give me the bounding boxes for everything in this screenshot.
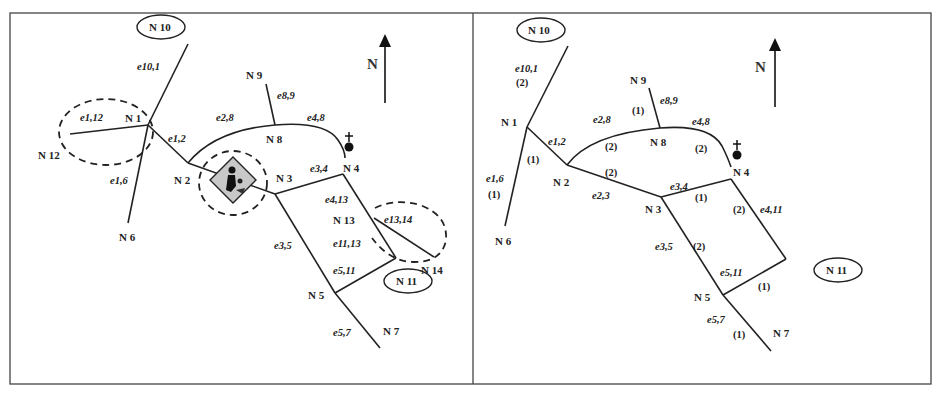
- edge-label-e5-7: e5,7: [707, 314, 726, 325]
- node-n11: N 11: [826, 264, 847, 276]
- hospital-cross-icon: [345, 132, 354, 152]
- edge-label-e1-2: e1,2: [168, 133, 187, 144]
- edge-label-e4-13: e4,13: [325, 194, 348, 205]
- edge-label-e1-2: e1,2: [548, 136, 567, 147]
- edge-label-e3-5: e3,5: [655, 241, 673, 252]
- edge-label-e5-11: e5,11: [333, 265, 355, 276]
- node-n7: N 7: [383, 325, 400, 337]
- edge-label-e2-3: e2,3: [592, 190, 610, 201]
- edge-weight-e4-8: (2): [695, 143, 708, 155]
- edge-label-e2-8: e2,8: [593, 114, 612, 125]
- node-n9: N 9: [246, 69, 263, 81]
- edge-label-e4-8: e4,8: [692, 116, 711, 127]
- node-n3: N 3: [645, 203, 662, 215]
- edge-label-e1-6: e1,6: [486, 173, 505, 184]
- node-n4: N 4: [343, 162, 360, 174]
- right-panel: N N 10 N 1 N 6 N 2 N 9 N 8 N 3 N 4 N 11 …: [486, 18, 862, 351]
- node-n13: N 13: [333, 214, 355, 226]
- edge-weight-e10-1: (2): [516, 77, 529, 89]
- edge-label-e11-13: e11,13: [333, 238, 361, 249]
- edge-label-e10-1: e10,1: [515, 63, 538, 74]
- node-n3: N 3: [276, 172, 293, 184]
- edge-label-e3-4: e3,4: [670, 181, 688, 192]
- node-n8: N 8: [266, 133, 283, 145]
- node-n1: N 1: [501, 116, 517, 128]
- edge-label-e8-9: e8,9: [660, 95, 679, 106]
- edge-weight-e5-7: (1): [733, 329, 746, 341]
- edge-e10-1: [527, 46, 568, 127]
- node-n9: N 9: [630, 74, 647, 86]
- node-n7: N 7: [773, 327, 790, 339]
- dashed-zone-n13: [372, 202, 446, 262]
- network-diagram: N N 10 N 1 N 12 N 6 N 2 N 9 N 8 N 3 N 4 …: [0, 0, 938, 394]
- edge-label-e2-8: e2,8: [216, 112, 235, 123]
- edge-label-e5-11: e5,11: [720, 267, 742, 278]
- north-arrow-icon: [769, 38, 781, 107]
- edge-label-e8-9: e8,9: [277, 90, 296, 101]
- node-n5: N 5: [308, 289, 325, 301]
- edge-label-e3-5: e3,5: [274, 240, 292, 251]
- node-n5: N 5: [694, 291, 711, 303]
- edge-e8-9: [649, 88, 660, 128]
- edge-e5-7: [335, 293, 380, 348]
- edge-weight-e4-11: (2): [733, 204, 746, 216]
- node-n2: N 2: [553, 176, 570, 188]
- node-n2: N 2: [174, 174, 191, 186]
- edge-weight-e3-4: (1): [695, 192, 708, 204]
- edge-weight-e2-3: (2): [605, 167, 618, 179]
- edge-label-e4-11: e4,11: [760, 204, 782, 215]
- edge-weight-e1-2: (1): [527, 154, 540, 166]
- edge-weight-e1-6: (1): [488, 189, 501, 201]
- hospital-cross-icon: [733, 140, 742, 160]
- edge-label-e1-6: e1,6: [110, 175, 129, 186]
- edge-e1-6: [128, 125, 148, 223]
- north-label: N: [755, 59, 766, 75]
- edge-label-e13-14: e13,14: [384, 214, 412, 225]
- edge-weight-e5-11: (1): [758, 281, 771, 293]
- dashed-zone-n1: [59, 99, 153, 165]
- edge-label-e5-7: e5,7: [333, 327, 352, 338]
- edge-weight-e8-9: (1): [632, 105, 645, 117]
- edge-e10-1: [148, 44, 188, 125]
- north-label: N: [367, 56, 378, 72]
- edge-label-e10-1: e10,1: [137, 61, 160, 72]
- edge-e8-9: [266, 84, 275, 125]
- node-n11: N 11: [396, 275, 417, 287]
- edge-e4-11: [731, 179, 786, 259]
- node-n8: N 8: [650, 136, 667, 148]
- north-arrow-icon: [379, 34, 391, 103]
- edge-label-e4-8: e4,8: [307, 112, 326, 123]
- edge-e1-2: [148, 125, 188, 163]
- node-n10: N 10: [528, 24, 550, 36]
- edge-label-e3-4: e3,4: [310, 163, 328, 174]
- edge-weight-e2-8: (2): [605, 141, 618, 153]
- node-n4: N 4: [733, 166, 750, 178]
- edge-label-e1-12: e1,12: [80, 112, 104, 123]
- edge-weight-e3-5: (2): [693, 241, 706, 253]
- node-n12: N 12: [38, 149, 60, 161]
- node-n6: N 6: [495, 235, 512, 247]
- edge-e1-6: [505, 127, 527, 226]
- node-n14: N 14: [421, 264, 443, 276]
- edge-e1-12: [70, 125, 148, 134]
- node-n6: N 6: [119, 231, 136, 243]
- node-n1: N 1: [125, 112, 141, 124]
- edge-e5-7: [723, 295, 771, 351]
- hazard-roadwork-icon: [210, 157, 256, 203]
- left-panel: N N 10 N 1 N 12 N 6 N 2 N 9 N 8 N 3 N 4 …: [38, 15, 446, 348]
- node-n10: N 10: [149, 21, 171, 33]
